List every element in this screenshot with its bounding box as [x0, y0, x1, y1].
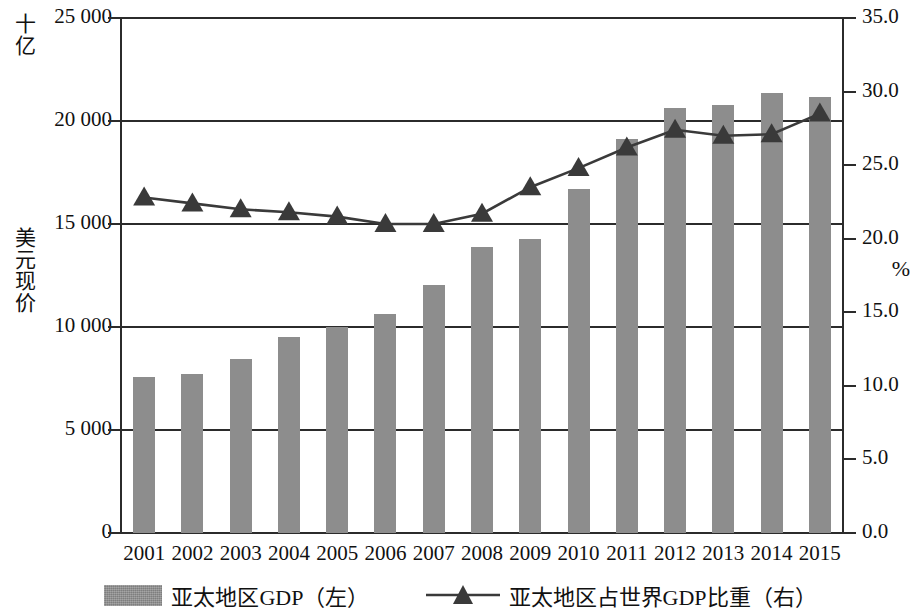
line-series	[120, 18, 844, 533]
right-tick-mark	[844, 532, 856, 534]
chart-legend: 亚太地区GDP（左） 亚太地区占世界GDP比重（右）	[0, 578, 921, 612]
line-marker-triangle	[519, 176, 541, 195]
left-tick-mark	[108, 532, 120, 534]
right-tick-label: 0.0	[862, 519, 921, 544]
right-tick-label: 15.0	[862, 298, 921, 323]
right-tick-label: 10.0	[862, 372, 921, 397]
left-tick-label: 10 000	[10, 313, 112, 338]
line-marker-triangle	[809, 103, 831, 122]
left-tick-mark	[108, 120, 120, 122]
left-tick-mark	[108, 17, 120, 19]
plot-area	[120, 18, 844, 533]
right-tick-mark	[844, 458, 856, 460]
right-tick-mark	[844, 238, 856, 240]
left-tick-mark	[108, 429, 120, 431]
right-tick-label: 25.0	[862, 151, 921, 176]
left-tick-label: 20 000	[10, 107, 112, 132]
right-tick-label: 35.0	[862, 4, 921, 29]
x-tick-label: 2015	[790, 541, 850, 566]
left-tick-label: 0	[10, 519, 112, 544]
left-tick-mark	[108, 326, 120, 328]
right-tick-label: 30.0	[862, 78, 921, 103]
left-tick-label: 5 000	[10, 416, 112, 441]
line-marker-triangle	[133, 186, 155, 205]
legend-item-line: 亚太地区占世界GDP比重（右）	[426, 579, 817, 611]
left-tick-label: 25 000	[10, 4, 112, 29]
right-tick-mark	[844, 311, 856, 313]
legend-item-bar: 亚太地区GDP（左）	[104, 579, 369, 611]
dual-axis-chart: 十亿 美元现价 % 05 00010 00015 00020 00025 000…	[0, 0, 921, 613]
left-tick-label: 15 000	[10, 210, 112, 235]
line-marker-triangle	[761, 123, 783, 142]
right-axis-unit-label: %	[884, 258, 918, 281]
line-triangle-swatch-icon	[426, 584, 500, 606]
line-marker-triangle	[471, 203, 493, 222]
left-axis-unit-label: 美元现价	[10, 228, 40, 315]
right-tick-mark	[844, 385, 856, 387]
right-tick-mark	[844, 17, 856, 19]
left-tick-mark	[108, 223, 120, 225]
legend-label-line: 亚太地区占世界GDP比重（右）	[509, 579, 817, 611]
right-tick-label: 20.0	[862, 225, 921, 250]
bar-swatch-icon	[104, 585, 162, 606]
right-tick-mark	[844, 91, 856, 93]
right-tick-mark	[844, 164, 856, 166]
line-markers	[133, 103, 831, 232]
line-marker-triangle	[568, 157, 590, 176]
line-marker-triangle	[664, 119, 686, 138]
legend-label-bar: 亚太地区GDP（左）	[171, 579, 369, 611]
right-tick-label: 5.0	[862, 445, 921, 470]
